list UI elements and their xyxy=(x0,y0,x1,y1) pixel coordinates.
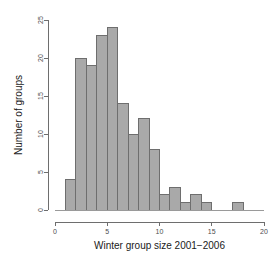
histogram-bar xyxy=(180,202,190,210)
y-axis: 0510152025 xyxy=(37,16,49,212)
histogram-chart: 051015202505101520Winter group size 2001… xyxy=(0,0,280,261)
x-tick-label: 15 xyxy=(208,228,216,235)
plot-svg: 051015202505101520Winter group size 2001… xyxy=(0,0,280,261)
x-tick-label: 20 xyxy=(260,228,268,235)
histogram-bar xyxy=(170,187,180,210)
plot-area: 051015202505101520Winter group size 2001… xyxy=(0,0,280,261)
histogram-bar xyxy=(118,104,128,210)
bars-group xyxy=(65,28,243,210)
histogram-bar xyxy=(76,58,86,210)
y-tick-label: 25 xyxy=(37,16,44,24)
histogram-bar xyxy=(97,35,107,210)
y-tick-label: 10 xyxy=(37,130,44,138)
histogram-bar xyxy=(128,134,138,210)
histogram-bar xyxy=(86,66,96,210)
x-axis: 05101520 xyxy=(53,222,268,235)
y-tick-label: 5 xyxy=(37,170,44,174)
histogram-bar xyxy=(107,28,117,210)
x-tick-label: 10 xyxy=(156,228,164,235)
histogram-bar xyxy=(65,180,75,210)
x-tick-label: 0 xyxy=(53,228,57,235)
histogram-bar xyxy=(149,149,159,210)
y-tick-label: 20 xyxy=(37,54,44,62)
x-axis-title: Winter group size 2001−2006 xyxy=(94,240,225,251)
histogram-bar xyxy=(201,202,211,210)
x-tick-label: 5 xyxy=(105,228,109,235)
histogram-bar xyxy=(191,195,201,210)
y-tick-label: 15 xyxy=(37,92,44,100)
y-tick-label: 0 xyxy=(37,208,44,212)
histogram-bar xyxy=(139,119,149,210)
y-axis-title: Number of groups xyxy=(13,75,24,155)
histogram-bar xyxy=(160,195,170,210)
histogram-bar xyxy=(233,202,243,210)
